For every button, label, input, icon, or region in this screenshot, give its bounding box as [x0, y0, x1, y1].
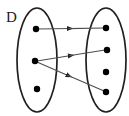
- right-set-dot-4: [103, 89, 109, 95]
- left-set-dot-1: [33, 26, 39, 32]
- right-set-dot-3: [103, 69, 109, 75]
- right-set-dot-2: [104, 47, 110, 53]
- mapping-diagram-canvas: [0, 0, 129, 116]
- domain-set-label: D: [6, 10, 17, 25]
- arrow-l1-to-r1-head-segment: [38, 29, 70, 30]
- arrow-l2-to-r4-tail-segment: [67, 75, 104, 91]
- arrow-l2-to-r2: [37, 50, 105, 61]
- arrow-l2-to-r2-head-segment: [37, 56, 71, 62]
- right-set-dot-1: [103, 25, 109, 31]
- arrow-l1-to-r1: [38, 28, 104, 29]
- arrow-l2-to-r4-head-segment: [37, 62, 69, 76]
- left-set-dot-2: [32, 58, 38, 64]
- arrow-l2-to-r4: [37, 62, 104, 91]
- left-set-dot-3: [34, 86, 40, 92]
- mapping-diagram-figure: D: [0, 0, 129, 116]
- right-set-ellipse: [86, 8, 126, 112]
- arrow-l1-to-r1-tail-segment: [68, 28, 104, 29]
